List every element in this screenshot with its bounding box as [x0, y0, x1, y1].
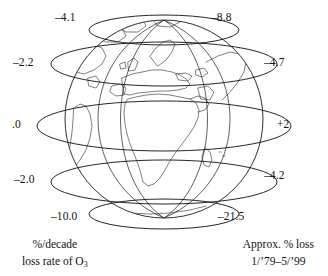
caption-left-line2-text: loss rate of O [22, 255, 84, 267]
label-south-loss: –21.5 [218, 211, 244, 223]
label-south-rate: –10.0 [51, 211, 77, 223]
caption-left-line2: loss rate of O3 [22, 253, 88, 270]
label-mid-north-rate: –2.2 [13, 57, 34, 69]
caption-right: Approx. % loss 1/’79–5/’99 [243, 236, 314, 269]
caption-left: %/decade loss rate of O3 [22, 236, 88, 269]
label-equator-rate: .0 [12, 119, 21, 131]
ozone-subscript: 3 [84, 260, 88, 269]
globe-illustration [0, 0, 328, 276]
caption-right-line2: 1/’79–5/’99 [243, 253, 314, 270]
label-mid-south-rate: –2.0 [14, 174, 35, 186]
label-mid-south-loss: –4.2 [264, 170, 285, 182]
ozone-loss-globe-figure: –4.1 –8.8 –2.2 –4.7 .0 +2 –2.0 –4.2 –10.… [0, 0, 328, 276]
label-north-rate: –4.1 [55, 12, 76, 24]
globe-sphere [65, 20, 263, 218]
caption-left-line1: %/decade [22, 236, 88, 253]
label-equator-loss: +2 [277, 119, 289, 131]
label-north-loss: –8.8 [211, 12, 232, 24]
label-mid-north-loss: –4.7 [264, 57, 285, 69]
caption-right-line1: Approx. % loss [243, 236, 314, 253]
